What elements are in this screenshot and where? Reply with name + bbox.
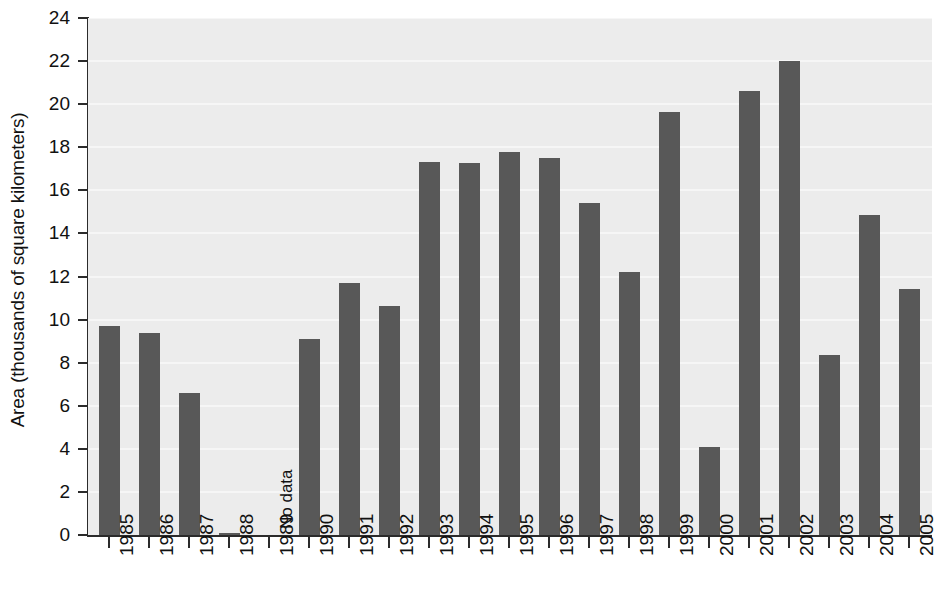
x-axis-tick (388, 537, 390, 548)
x-axis-tick-label: 2001 (757, 514, 776, 556)
x-axis-tick-label: 1993 (437, 514, 456, 556)
y-axis-tick-label: 14 (0, 223, 70, 242)
x-axis-tick-label: 1988 (237, 514, 256, 556)
y-axis-tick-label: 18 (0, 137, 70, 156)
x-axis-tick-label: 1998 (637, 514, 656, 556)
y-axis-tick (78, 103, 87, 105)
y-axis-tick-label: 6 (0, 396, 70, 415)
y-axis-tick-label: 16 (0, 180, 70, 199)
x-axis-tick (828, 537, 830, 548)
bar (299, 339, 320, 535)
x-axis-tick (108, 537, 110, 548)
x-axis-tick-label: 1985 (117, 514, 136, 556)
y-axis-tick (78, 534, 87, 536)
bar (459, 163, 480, 535)
x-axis-tick (228, 537, 230, 548)
y-axis-tick (78, 232, 87, 234)
bar-series: No data (88, 18, 932, 535)
x-axis-tick-label: 1986 (157, 514, 176, 556)
x-axis-tick (428, 537, 430, 548)
x-axis-tick (508, 537, 510, 548)
x-axis-tick-label: 2005 (917, 514, 936, 556)
x-axis-tick (708, 537, 710, 548)
y-axis-ticks: 024681012141618202224 (0, 0, 88, 604)
y-axis-tick-label: 24 (0, 8, 70, 27)
x-axis-tick-label: 1995 (517, 514, 536, 556)
bar (779, 61, 800, 535)
y-axis-tick (78, 362, 87, 364)
x-axis-tick-label: 1991 (357, 514, 376, 556)
y-axis-tick (78, 146, 87, 148)
x-axis-tick (748, 537, 750, 548)
y-axis-tick (78, 189, 87, 191)
x-axis-tick (348, 537, 350, 548)
y-axis-tick-label: 0 (0, 525, 70, 544)
bar (539, 158, 560, 535)
bar (419, 162, 440, 535)
y-axis-tick (78, 405, 87, 407)
x-axis-tick-label: 1989 (277, 514, 296, 556)
bar (139, 333, 160, 535)
y-axis-tick-label: 2 (0, 482, 70, 501)
x-axis-tick-label: 1992 (397, 514, 416, 556)
bar (379, 306, 400, 535)
x-axis-tick (468, 537, 470, 548)
x-axis-tick-label: 1997 (597, 514, 616, 556)
y-axis-tick-label: 10 (0, 310, 70, 329)
bar (499, 152, 520, 535)
y-axis-tick (78, 319, 87, 321)
y-axis-tick-label: 8 (0, 353, 70, 372)
x-axis-tick-label: 1987 (197, 514, 216, 556)
bar (739, 91, 760, 535)
x-axis-tick (268, 537, 270, 548)
bar (819, 355, 840, 535)
bar (899, 289, 920, 535)
y-axis-tick (78, 448, 87, 450)
x-axis-tick-label: 1999 (677, 514, 696, 556)
bar (619, 272, 640, 535)
x-axis-tick (188, 537, 190, 548)
y-axis-tick (78, 60, 87, 62)
x-axis-tick-label: 2000 (717, 514, 736, 556)
x-axis-tick (148, 537, 150, 548)
bar (579, 203, 600, 535)
bar (99, 326, 120, 535)
x-axis-tick-label: 2004 (877, 514, 896, 556)
bar (339, 283, 360, 535)
x-axis-tick-label: 2002 (797, 514, 816, 556)
x-axis-tick (308, 537, 310, 548)
bar (859, 215, 880, 535)
y-axis-tick-label: 22 (0, 51, 70, 70)
bar (659, 112, 680, 535)
x-axis-tick (628, 537, 630, 548)
y-axis-tick-label: 20 (0, 94, 70, 113)
y-axis-tick-label: 4 (0, 439, 70, 458)
x-axis-tick (588, 537, 590, 548)
y-axis-tick (78, 17, 87, 19)
x-axis-tick-label: 2003 (837, 514, 856, 556)
x-axis-tick (868, 537, 870, 548)
y-axis-tick (78, 276, 87, 278)
x-axis-tick (668, 537, 670, 548)
x-axis-tick-label: 1994 (477, 514, 496, 556)
x-axis-tick-label: 1996 (557, 514, 576, 556)
y-axis-tick (78, 491, 87, 493)
x-axis-tick (908, 537, 910, 548)
plot-area: No data (88, 18, 932, 535)
y-axis-tick-label: 12 (0, 267, 70, 286)
x-axis-tick (788, 537, 790, 548)
x-axis-tick (548, 537, 550, 548)
x-axis-tick-label: 1990 (317, 514, 336, 556)
